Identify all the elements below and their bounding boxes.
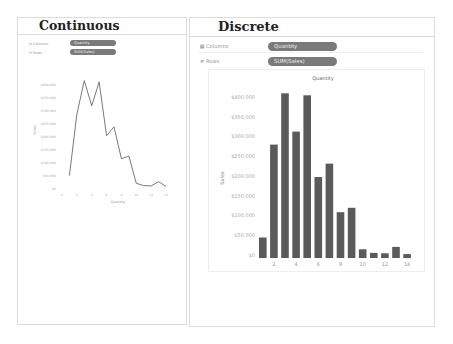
columns-shelf: ≡ Columns Quantity <box>28 40 178 47</box>
x-tick-label: 14 <box>404 261 410 267</box>
y-tick-label: $150,000 <box>41 148 56 152</box>
panel-title-discrete: Discrete <box>190 18 434 37</box>
continuous-panel: Continuous ≡ Columns Quantity ≡ Rows SUM… <box>17 17 187 325</box>
x-tick-label: 8 <box>120 193 122 197</box>
bar-quantity-2[interactable] <box>270 145 278 258</box>
y-tick-label: $400,000 <box>231 94 255 100</box>
bars <box>259 93 411 258</box>
y-tick-label: $400,000 <box>41 83 56 87</box>
panel-title-continuous: Continuous <box>18 18 186 35</box>
y-tick-label: $300,000 <box>41 109 56 113</box>
bar-quantity-8[interactable] <box>337 212 345 258</box>
x-tick-label: 8 <box>339 261 342 267</box>
rows-shelf-label: Rows <box>33 51 42 55</box>
y-tick-label: $350,000 <box>41 96 56 100</box>
x-tick-label: 10 <box>360 261 366 267</box>
shelf-divider <box>198 52 423 53</box>
x-tick-label: 14 <box>164 193 168 197</box>
bar-quantity-1[interactable] <box>259 238 267 259</box>
columns-icon: ▦ <box>198 43 206 49</box>
x-tick-label: 4 <box>91 193 93 197</box>
y-tick-label: $0 <box>52 187 56 191</box>
x-tick-label: 6 <box>106 193 108 197</box>
y-tick-label: $150,000 <box>231 193 255 199</box>
discrete-bar-chart: Quantity $0$50,000$100,000$150,000$200,0… <box>209 70 424 271</box>
columns-pill-quantity[interactable]: Quantity <box>70 40 116 46</box>
x-tick-label: 12 <box>382 261 388 267</box>
x-tick-label: 4 <box>295 261 298 267</box>
x-axis-ticks: 02468101214 <box>61 193 168 197</box>
discrete-panel: Discrete ▦ Columns Quantity ≡ Rows SUM(S… <box>189 17 435 327</box>
y-tick-label: $200,000 <box>231 173 255 179</box>
x-tick-label: 12 <box>149 193 153 197</box>
y-axis-label: Sales <box>219 171 225 185</box>
y-axis-ticks: $0$50,000$100,000$150,000$200,000$250,00… <box>231 94 255 258</box>
y-tick-label: $50,000 <box>234 232 255 238</box>
y-tick-label: $250,000 <box>231 153 255 159</box>
y-tick-label: $100,000 <box>41 161 56 165</box>
x-tick-label: 10 <box>134 193 138 197</box>
rows-pill-sum-sales[interactable]: SUM(Sales) <box>70 49 116 55</box>
bar-quantity-7[interactable] <box>326 164 334 258</box>
rows-shelf: ≡ Rows SUM(Sales) <box>198 56 423 66</box>
sales-line <box>69 81 166 187</box>
bar-quantity-3[interactable] <box>281 93 289 258</box>
columns-shelf-label: Columns <box>206 43 229 49</box>
x-tick-label: 0 <box>61 193 63 197</box>
bar-quantity-12[interactable] <box>381 253 389 258</box>
rows-shelf: ≡ Rows SUM(Sales) <box>28 49 178 56</box>
y-tick-label: $0 <box>249 252 255 258</box>
x-axis-ticks: 2468101214 <box>272 261 410 267</box>
rows-shelf-label: Rows <box>206 58 220 64</box>
discrete-chart-frame: Quantity $0$50,000$100,000$150,000$200,0… <box>208 69 425 272</box>
y-tick-label: $50,000 <box>43 174 56 178</box>
x-axis-label: Quantity <box>111 200 126 204</box>
chart-header-quantity: Quantity <box>312 75 334 82</box>
columns-pill-quantity[interactable]: Quantity <box>268 42 337 51</box>
y-tick-label: $200,000 <box>41 135 56 139</box>
y-tick-label: $100,000 <box>231 212 255 218</box>
bar-quantity-14[interactable] <box>403 254 411 258</box>
bar-quantity-9[interactable] <box>348 208 356 258</box>
rows-pill-sum-sales[interactable]: SUM(Sales) <box>268 57 337 66</box>
columns-shelf-label: Columns <box>33 42 48 46</box>
bar-quantity-4[interactable] <box>292 132 300 258</box>
continuous-line-chart: $0$50,000$100,000$150,000$200,000$250,00… <box>18 58 186 238</box>
y-axis-label: Sales <box>33 125 37 135</box>
bar-quantity-13[interactable] <box>392 247 400 258</box>
columns-shelf: ▦ Columns Quantity <box>198 41 423 51</box>
x-tick-label: 2 <box>76 193 78 197</box>
y-tick-label: $350,000 <box>231 114 255 120</box>
bar-quantity-11[interactable] <box>370 253 378 258</box>
bar-quantity-10[interactable] <box>359 249 367 258</box>
x-tick-label: 2 <box>272 261 275 267</box>
bar-quantity-6[interactable] <box>315 177 323 258</box>
rows-icon: ≡ <box>198 58 206 64</box>
x-tick-label: 6 <box>317 261 320 267</box>
y-axis-ticks: $0$50,000$100,000$150,000$200,000$250,00… <box>41 83 56 191</box>
y-tick-label: $300,000 <box>231 133 255 139</box>
bar-quantity-5[interactable] <box>303 95 311 258</box>
y-tick-label: $250,000 <box>41 122 56 126</box>
